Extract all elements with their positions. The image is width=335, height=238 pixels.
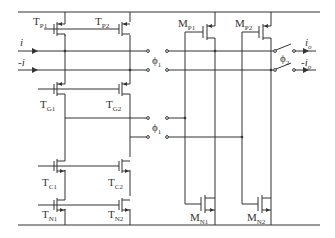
- label-TC1: TC1: [42, 177, 57, 191]
- label-phi2: ϕ2: [280, 53, 289, 67]
- input-neg-i-label: -i: [18, 57, 25, 68]
- input-i-label: i: [20, 37, 23, 48]
- transistor-TC1: [54, 157, 65, 173]
- label-TC2: TC2: [108, 177, 123, 191]
- transistor-TP2: [119, 22, 130, 36]
- label-MN1: MN1: [190, 212, 208, 226]
- input-neg-i-arrow-icon: [32, 67, 38, 73]
- circuit-schematic: [0, 0, 335, 238]
- label-MP1: MP1: [178, 18, 195, 32]
- transistor-TG2: [119, 80, 130, 98]
- output-neg-io-label: -io: [301, 57, 311, 71]
- label-TN1: TN1: [42, 209, 57, 223]
- label-phi1-bottom: ϕ1: [152, 122, 161, 136]
- label-phi1-top: ϕ1: [152, 55, 161, 69]
- output-io-label: io: [305, 37, 312, 51]
- label-MN2: MN2: [247, 212, 265, 226]
- label-TP2: TP2: [95, 16, 109, 30]
- label-TP1: TP1: [33, 16, 47, 30]
- label-TG1: TG1: [40, 99, 55, 113]
- label-TG2: TG2: [106, 99, 121, 113]
- label-TN2: TN2: [108, 209, 123, 223]
- transistor-TC2: [119, 159, 130, 173]
- input-i-arrow-icon: [32, 48, 38, 54]
- label-MP2: MP2: [235, 18, 252, 32]
